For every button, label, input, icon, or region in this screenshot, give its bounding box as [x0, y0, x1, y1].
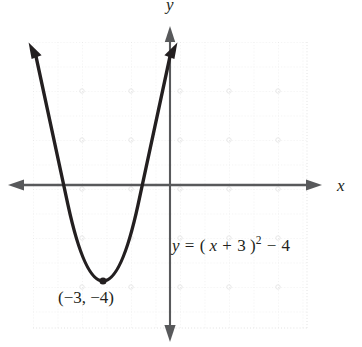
x-axis-label: x	[337, 177, 345, 194]
vertex-point-marker	[99, 277, 106, 284]
equation-exponent: 2	[256, 234, 262, 247]
vertex-y-value: −4	[90, 288, 108, 307]
equation-constant: 4	[282, 236, 291, 255]
coordinate-plane-svg	[0, 0, 362, 347]
x-axis-left-arrowhead	[8, 180, 24, 191]
equation-equals: =	[184, 236, 196, 255]
equation-plus: +	[221, 236, 233, 255]
vertex-x-value: −3,	[64, 288, 86, 307]
equation-lhs: y	[172, 236, 180, 255]
y-axis-top-arrowhead	[165, 26, 175, 42]
x-axis-right-arrowhead	[306, 180, 322, 191]
equation-open-paren: (	[200, 236, 206, 255]
equation-inner-constant: 3	[237, 236, 246, 255]
equation-variable: x	[210, 236, 218, 255]
equation-label: y = ( x + 3 )2 − 4	[172, 237, 290, 254]
parabola-graph-figure: y x y = ( x + 3 )2 − 4 (−3, −4)	[0, 0, 362, 347]
equation-minus: −	[266, 236, 278, 255]
y-axis-bottom-arrowhead	[164, 325, 175, 342]
y-axis-label: y	[166, 0, 174, 13]
vertex-close-paren: )	[108, 288, 114, 307]
vertex-coordinate-label: (−3, −4)	[58, 289, 114, 306]
